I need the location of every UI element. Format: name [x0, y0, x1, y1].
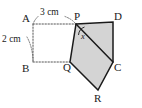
geometry-figure: A B P D C Q R 3 cm 2 cm x	[0, 0, 142, 108]
vertex-label-Q: Q	[63, 62, 71, 73]
dimension-leader-arcs	[27, 17, 75, 61]
vertex-label-B: B	[22, 63, 29, 74]
dimension-label-left: 2 cm	[2, 35, 21, 45]
angle-label-x: x	[81, 32, 85, 41]
dimension-label-top: 3 cm	[40, 8, 59, 18]
vertex-label-A: A	[22, 13, 30, 24]
vertex-label-P: P	[74, 11, 80, 22]
leader-arc-3cm-left	[34, 17, 39, 24]
vertex-label-D: D	[114, 11, 122, 22]
leader-arc-2cm	[27, 37, 33, 60]
vertex-label-C: C	[114, 62, 121, 73]
vertex-label-R: R	[94, 93, 101, 104]
